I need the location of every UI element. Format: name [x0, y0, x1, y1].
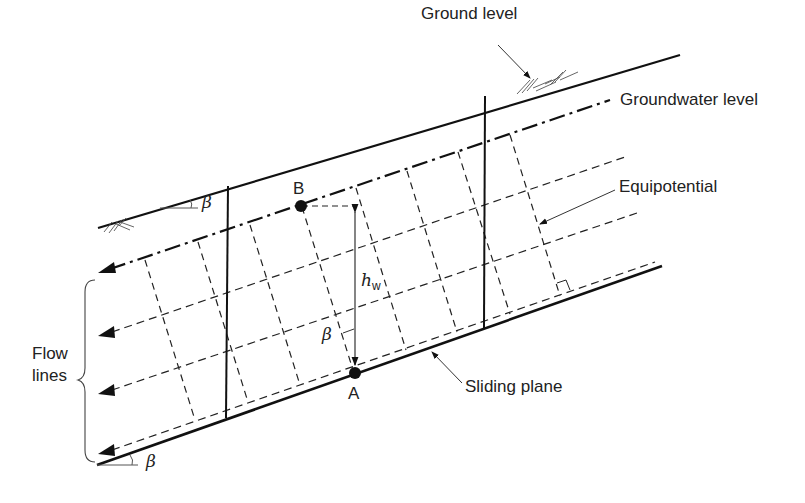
- sliding-plane: [97, 266, 662, 465]
- flow-lines: [112, 157, 655, 450]
- groundwater-level-line: [110, 100, 610, 269]
- flow-arrow-4: [98, 444, 115, 456]
- groundwater-level-label: Groundwater level: [620, 90, 758, 110]
- flow-lines-label-2: lines: [32, 366, 67, 386]
- flow-arrow-3: [98, 384, 115, 396]
- beta-angle-marker: [343, 329, 354, 333]
- ground-level-leader: [498, 45, 530, 78]
- flow-lines-label-1: Flow: [32, 344, 68, 364]
- point-a-label: A: [348, 384, 359, 404]
- point-b-label: B: [293, 179, 304, 199]
- point-b: [295, 200, 307, 212]
- beta-bottom-label: β: [146, 451, 156, 471]
- hw-label: hw: [361, 270, 381, 293]
- beta-top-label: β: [202, 192, 212, 212]
- right-angle-marker: [557, 280, 570, 290]
- flow-arrow-1: [98, 262, 116, 273]
- beta-mid-label: β: [322, 324, 332, 344]
- flow-net-diagram: [0, 0, 805, 503]
- equipotential-label: Equipotential: [619, 177, 717, 197]
- flow-lines-brace: [78, 280, 95, 462]
- slice-boundary-right: [484, 96, 485, 328]
- ground-level-label: Ground level: [421, 4, 517, 24]
- beta-bottom-arc: [130, 455, 133, 465]
- sliding-plane-leader: [432, 352, 462, 383]
- sliding-plane-label: Sliding plane: [465, 377, 562, 397]
- hw-main: h: [361, 270, 372, 290]
- equipotential-leader: [540, 190, 615, 224]
- point-a: [349, 367, 361, 379]
- flow-arrow-2: [98, 326, 115, 338]
- ground-surface: [98, 55, 680, 228]
- hw-subscript: w: [372, 279, 381, 293]
- slice-boundary-left: [226, 186, 228, 418]
